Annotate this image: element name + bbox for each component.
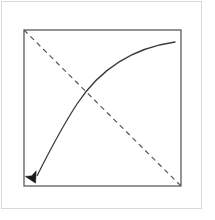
figure-root	[0, 0, 215, 220]
dashed-diagonal-line	[24, 30, 181, 186]
figure-canvas	[0, 0, 215, 220]
curved-arrow-path	[37, 42, 175, 176]
